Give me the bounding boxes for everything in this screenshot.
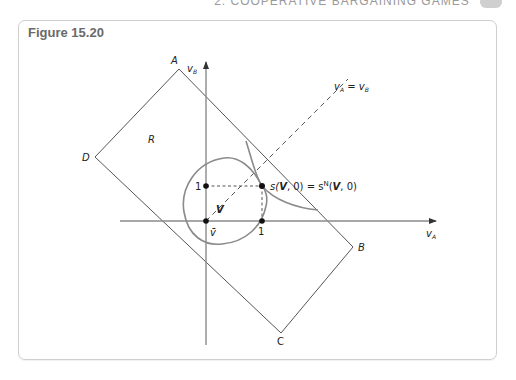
x-axis-label: vA: [426, 228, 436, 240]
x-tick-one: 1: [258, 226, 264, 237]
diagonal-label: vA = vB: [334, 81, 369, 93]
region-v-label: V: [216, 204, 225, 215]
feasible-set-rectangle: [95, 69, 353, 333]
region-r-label: R: [148, 134, 155, 145]
set-v-boundary: [183, 158, 266, 245]
solution-point: [259, 183, 265, 189]
bargaining-diagram: A B C D R V vB vA 1 1 v̄ vA = vB s(V, 0)…: [0, 0, 516, 380]
x-unit-point: [259, 218, 265, 224]
vertex-d-label: D: [82, 152, 90, 163]
y-axis-label: vB: [187, 63, 197, 75]
vertex-b-label: B: [358, 242, 365, 253]
diagonal-dashed-line: [206, 79, 348, 221]
origin-point: [203, 218, 209, 224]
solution-label: s(V, 0) = sN(V, 0): [270, 180, 357, 192]
vertex-c-label: C: [277, 336, 284, 347]
origin-label: v̄: [210, 227, 217, 238]
y-tick-one: 1: [195, 181, 201, 192]
vertex-a-label: A: [170, 55, 178, 66]
y-unit-point: [203, 183, 209, 189]
